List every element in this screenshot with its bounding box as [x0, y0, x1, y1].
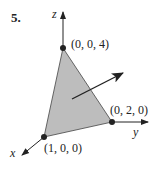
x-axis-label: x — [9, 146, 16, 160]
x-axis — [22, 137, 44, 155]
diagram-canvas: 5. z y x (0, 0, 4) (0, 2, 0) (1, 0, 0) — [0, 0, 157, 170]
z-axis-label: z — [51, 7, 57, 21]
vertex-point-y — [109, 119, 115, 125]
vertex-point-x — [41, 134, 47, 140]
y-axis-label: y — [132, 125, 139, 139]
vertex-point-z — [60, 45, 66, 51]
vertex-label-y: (0, 2, 0) — [110, 103, 148, 117]
problem-number: 5. — [11, 10, 21, 25]
vertex-label-x: (1, 0, 0) — [44, 141, 82, 155]
vertex-label-z: (0, 0, 4) — [71, 37, 109, 51]
plane-triangle — [44, 48, 112, 137]
